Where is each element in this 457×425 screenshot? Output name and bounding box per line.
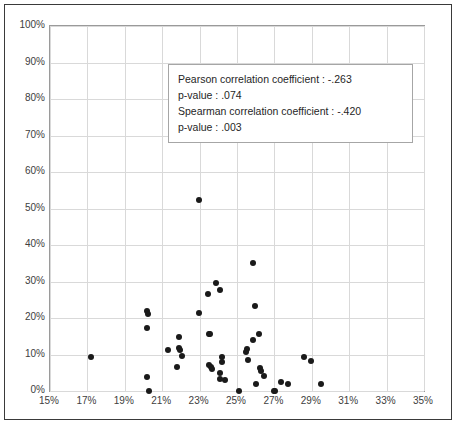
scatter-point [196,310,202,316]
y-tick-label-20pct: 20% [25,312,45,322]
x-tick-label-21pct: 21% [151,395,171,407]
scatter-point [253,381,259,387]
scatter-point [176,334,182,340]
gridline-horizontal-2 [50,318,424,319]
scatter-point [252,303,258,309]
y-tick-label-80pct: 80% [25,93,45,103]
y-axis-tick-labels: 0%10%20%30%40%50%60%70%80%90%100% [5,25,45,392]
scatter-point [205,291,211,297]
scatter-point [250,337,256,343]
spearman-coefficient-line: Spearman correlation coefficient : -.420 [178,103,403,119]
scatter-point [278,379,284,385]
x-tick-label-35pct: 35% [413,395,433,407]
scatter-point [179,353,185,359]
x-tick-label-33pct: 33% [376,395,396,407]
scatter-point [318,381,324,387]
y-tick-label-10pct: 10% [25,349,45,359]
gridline-horizontal-10 [50,26,424,27]
scatter-point [146,388,152,394]
scatter-point [209,366,215,372]
y-tick-label-40pct: 40% [25,239,45,249]
x-tick-label-23pct: 23% [189,395,209,407]
scatter-point [222,377,228,383]
scatter-point [145,311,151,317]
scatter-point [256,331,262,337]
y-tick-label-30pct: 30% [25,276,45,286]
spearman-pvalue-line: p-value : .003 [178,119,403,135]
statistics-annotation-box: Pearson correlation coefficient : -.263 … [168,64,413,143]
x-tick-label-17pct: 17% [76,395,96,407]
y-tick-label-90pct: 90% [25,57,45,67]
scatter-point [301,354,307,360]
pearson-pvalue-line: p-value : .074 [178,87,403,103]
scatter-point [144,374,150,380]
scatter-point [196,197,202,203]
x-tick-label-25pct: 25% [226,395,246,407]
gridline-horizontal-6 [50,172,424,173]
scatter-point [250,260,256,266]
x-tick-label-27pct: 27% [263,395,283,407]
scatter-point [236,388,242,394]
x-tick-label-29pct: 29% [301,395,321,407]
y-tick-label-50pct: 50% [25,203,45,213]
scatter-point [213,280,219,286]
y-tick-label-60pct: 60% [25,166,45,176]
gridline-vertical-10 [424,26,425,391]
scatter-point [285,381,291,387]
y-tick-label-100pct: 100% [19,20,45,30]
scatter-point [217,287,223,293]
scatter-point [261,373,267,379]
scatter-point [245,357,251,363]
scatter-point [165,347,171,353]
chart-frame: 0%10%20%30%40%50%60%70%80%90%100% 15%17%… [4,4,452,420]
scatter-point [207,331,213,337]
y-tick-label-0pct: 0% [31,385,45,395]
x-tick-label-15pct: 15% [39,395,59,407]
gridline-horizontal-3 [50,282,424,283]
scatter-point [144,325,150,331]
x-tick-label-19pct: 19% [114,395,134,407]
scatter-point [308,358,314,364]
x-tick-label-31pct: 31% [338,395,358,407]
scatter-point [88,354,94,360]
gridline-horizontal-4 [50,245,424,246]
scatter-point [272,388,278,394]
pearson-coefficient-line: Pearson correlation coefficient : -.263 [178,71,403,87]
x-axis-tick-labels: 15%17%19%21%23%25%27%29%31%33%35% [49,395,425,411]
y-tick-label-70pct: 70% [25,130,45,140]
scatter-point [174,364,180,370]
gridline-horizontal-5 [50,209,424,210]
scatter-point [219,359,225,365]
gridline-horizontal-1 [50,355,424,356]
scatter-point [177,347,183,353]
